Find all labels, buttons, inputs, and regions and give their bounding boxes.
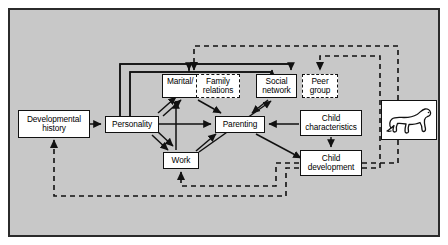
node-label: Personality — [110, 120, 154, 129]
node-label: Work — [170, 156, 193, 165]
node-social-network[interactable]: Social network — [256, 74, 297, 98]
node-child-development[interactable]: Child development — [300, 150, 362, 176]
node-label: Family relations — [197, 77, 239, 95]
node-label: Social network — [257, 77, 296, 95]
node-label: Developmental history — [19, 115, 89, 133]
process-model-figure: Developmental history Personality Marita… — [0, 0, 448, 245]
dog-icon — [383, 102, 435, 138]
node-family-relations[interactable]: Family relations — [196, 74, 240, 98]
node-label: Parenting — [221, 120, 260, 129]
node-label: Child development — [301, 154, 361, 172]
node-label: Marital/ — [165, 75, 195, 86]
node-peer-group[interactable]: Peer group — [302, 74, 338, 98]
node-developmental-history[interactable]: Developmental history — [18, 110, 90, 138]
node-parenting[interactable]: Parenting — [215, 116, 265, 133]
node-child-characteristics[interactable]: Child characteristics — [300, 110, 362, 136]
node-label: Peer group — [303, 77, 337, 95]
node-label: Child characteristics — [301, 114, 361, 132]
node-work[interactable]: Work — [163, 152, 199, 169]
dog-illustration-frame — [381, 100, 437, 140]
node-personality[interactable]: Personality — [105, 116, 159, 133]
